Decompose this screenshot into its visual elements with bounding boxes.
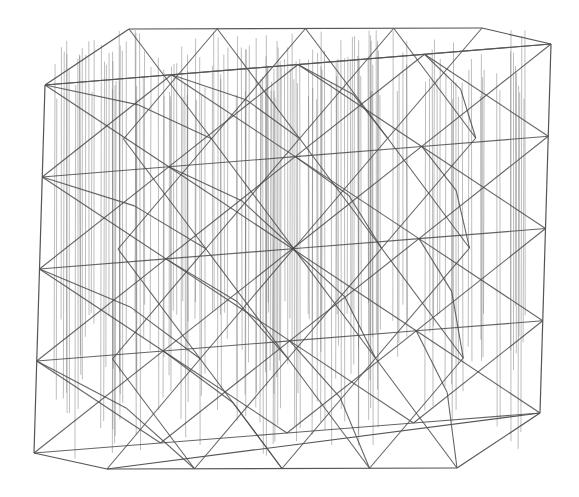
lattice-diagram	[0, 0, 579, 497]
